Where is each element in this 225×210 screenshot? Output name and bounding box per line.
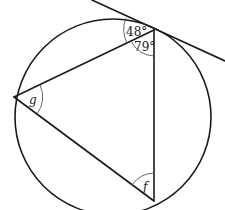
label-angle-g: g [29,93,37,107]
tangent-line [92,0,225,61]
label-angle-f: f [142,180,150,194]
circle [15,19,211,210]
angle-arc-g [37,85,43,114]
chord-top-left [14,30,154,97]
label-79-degrees: 79° [134,40,155,54]
label-48-degrees: 48° [126,25,147,39]
chord-left-bottom [14,97,154,201]
circle-theorem-diagram: 48° 79° g f [0,0,225,210]
